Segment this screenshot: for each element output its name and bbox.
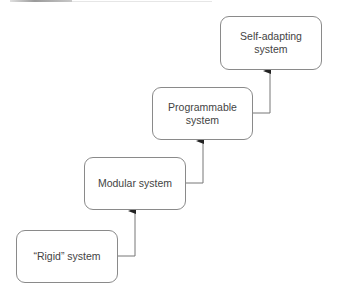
connector-programmable-to-self-adapting [253,71,270,113]
node-programmable-system: Programmable system [152,87,253,140]
node-label: Modular system [98,177,172,190]
node-label-line1: Programmable [168,101,237,114]
node-label-line2: system [186,114,219,127]
node-rigid-system: “Rigid” system [16,230,118,283]
node-self-adapting-system: Self-adapting system [220,16,322,70]
node-label: “Rigid” system [33,250,100,263]
connector-rigid-to-modular [118,211,135,256]
node-label-line2: system [254,43,287,56]
node-modular-system: Modular system [84,157,186,210]
node-label-line1: Self-adapting [240,30,302,43]
connector-modular-to-programmable [186,141,203,183]
